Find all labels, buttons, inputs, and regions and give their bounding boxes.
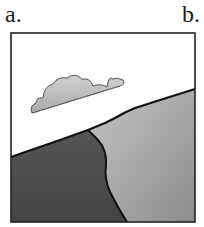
landscape-diagram xyxy=(0,0,204,227)
